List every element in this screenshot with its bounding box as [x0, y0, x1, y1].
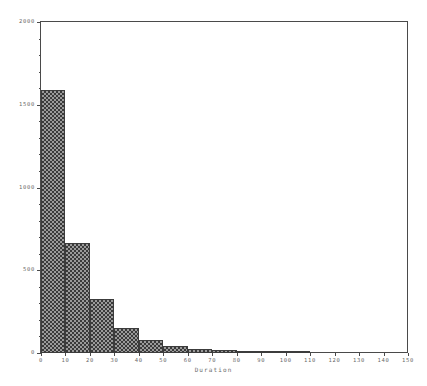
x-axis-tick — [384, 353, 385, 356]
x-axis-tick — [212, 353, 213, 356]
y-axis-minor-tick — [39, 287, 41, 288]
x-axis-tick-label: 150 — [402, 358, 414, 364]
y-axis-tick-label: 1000 — [1, 185, 35, 191]
x-axis-tick-label: 60 — [184, 358, 192, 364]
x-axis-tick-label: 140 — [378, 358, 390, 364]
y-axis-minor-tick — [39, 55, 41, 56]
y-axis-tick-label: 1500 — [1, 102, 35, 108]
y-axis-minor-tick — [39, 320, 41, 321]
x-axis-tick — [114, 353, 115, 356]
y-axis-tick — [37, 105, 41, 106]
bar — [163, 346, 187, 353]
x-axis-tick-label: 100 — [280, 358, 292, 364]
x-axis-tick — [90, 353, 91, 356]
x-axis: 0102030405060708090100110120130140150 — [41, 353, 408, 354]
x-axis-tick — [310, 353, 311, 356]
x-axis-tick — [139, 353, 140, 356]
y-axis-minor-tick — [39, 303, 41, 304]
x-axis-tick-label: 70 — [208, 358, 216, 364]
y-axis-minor-tick — [39, 171, 41, 172]
y-axis-minor-tick — [39, 39, 41, 40]
y-axis-minor-tick — [39, 254, 41, 255]
bars-layer — [41, 22, 408, 353]
y-axis-tick-label: 2000 — [1, 19, 35, 25]
x-axis-tick-label: 50 — [159, 358, 167, 364]
y-axis-tick — [37, 188, 41, 189]
x-axis-tick — [359, 353, 360, 356]
y-axis-tick-label: 500 — [1, 267, 35, 273]
x-axis-tick — [41, 353, 42, 356]
x-axis-tick-label: 130 — [353, 358, 365, 364]
y-axis-tick — [37, 22, 41, 23]
y-axis-minor-tick — [39, 204, 41, 205]
bar — [41, 90, 65, 353]
y-axis-minor-tick — [39, 72, 41, 73]
x-axis-tick — [163, 353, 164, 356]
x-axis-tick — [408, 353, 409, 356]
y-axis-minor-tick — [39, 237, 41, 238]
x-axis-tick-label: 90 — [257, 358, 265, 364]
x-axis-tick — [261, 353, 262, 356]
x-axis-tick-label: 10 — [61, 358, 69, 364]
x-axis-tick — [188, 353, 189, 356]
x-axis-tick — [335, 353, 336, 356]
bar — [114, 328, 138, 353]
histogram-chart: 0500100015002000 01020304050607080901001… — [0, 0, 427, 386]
x-axis-tick-label: 120 — [329, 358, 341, 364]
x-axis-tick-label: 20 — [86, 358, 94, 364]
y-axis-tick — [37, 270, 41, 271]
x-axis-tick-label: 80 — [233, 358, 241, 364]
y-axis-minor-tick — [39, 121, 41, 122]
y-axis-minor-tick — [39, 138, 41, 139]
x-axis-tick — [237, 353, 238, 356]
bar — [90, 299, 114, 353]
bar — [139, 340, 163, 353]
y-axis-tick-label: 0 — [1, 350, 35, 356]
x-axis-title: Duration — [0, 366, 427, 373]
x-axis-tick — [65, 353, 66, 356]
y-axis-minor-tick — [39, 336, 41, 337]
x-axis-tick — [286, 353, 287, 356]
y-axis-minor-tick — [39, 154, 41, 155]
y-axis-minor-tick — [39, 221, 41, 222]
x-axis-tick-label: 0 — [39, 358, 43, 364]
y-axis: 0500100015002000 — [41, 22, 42, 353]
y-axis-minor-tick — [39, 88, 41, 89]
x-axis-tick-label: 30 — [110, 358, 118, 364]
bar — [65, 243, 89, 353]
x-axis-tick-label: 110 — [304, 358, 316, 364]
x-axis-tick-label: 40 — [135, 358, 143, 364]
plot-area — [41, 22, 408, 353]
